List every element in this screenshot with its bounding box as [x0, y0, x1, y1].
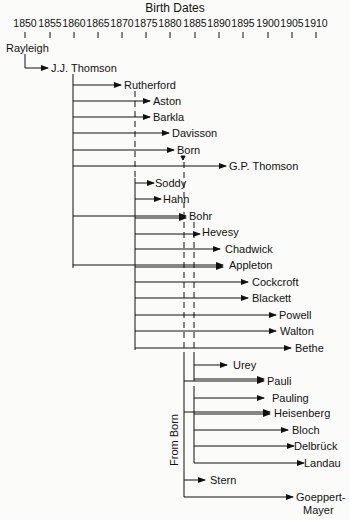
year-tick-label: 1870	[110, 17, 134, 29]
label-rutherford: Rutherford	[124, 79, 176, 91]
label-davisson: Davisson	[172, 127, 217, 139]
label-bloch: Bloch	[292, 424, 320, 436]
label-powell: Powell	[279, 309, 311, 321]
label-pauli: Pauli	[267, 375, 291, 387]
year-tick-label: 1900	[256, 17, 280, 29]
side-label-from-born: From Born	[168, 414, 180, 466]
label-blackett: Blackett	[252, 292, 291, 304]
scientist-labels: Rayleigh J.J. Thomson Rutherford Aston B…	[6, 42, 346, 516]
genealogy-diagram: Birth Dates 1850 1855 1860 1865 1870 187…	[0, 0, 350, 520]
label-cockcroft: Cockcroft	[252, 276, 298, 288]
label-stern: Stern	[210, 474, 236, 486]
year-tick-label: 1875	[134, 17, 158, 29]
label-hevesy: Hevesy	[202, 226, 239, 238]
year-tick-label: 1885	[183, 17, 207, 29]
label-hahn: Hahn	[163, 193, 189, 205]
label-goeppert-mayer-line2: Mayer	[303, 504, 334, 516]
year-tick-label: 1895	[231, 17, 255, 29]
year-tick-label: 1880	[158, 17, 182, 29]
label-rayleigh: Rayleigh	[6, 42, 49, 54]
year-tick-label: 1910	[304, 17, 328, 29]
label-soddy: Soddy	[155, 177, 187, 189]
label-bohr: Bohr	[189, 210, 213, 222]
label-pauling: Pauling	[272, 392, 309, 404]
label-delbruck: Delbrück	[294, 440, 338, 452]
year-tick-label: 1855	[38, 17, 62, 29]
label-heisenberg: Heisenberg	[274, 407, 330, 419]
year-axis: 1850 1855 1860 1865 1870 1875 1880 1885 …	[13, 17, 328, 38]
label-chadwick: Chadwick	[225, 243, 273, 255]
label-barkla: Barkla	[153, 111, 185, 123]
year-tick-label: 1850	[13, 17, 37, 29]
label-gp-thomson: G.P. Thomson	[229, 160, 298, 172]
label-walton: Walton	[280, 325, 314, 337]
label-jj-thomson: J.J. Thomson	[51, 62, 117, 74]
label-born: Born	[177, 144, 200, 156]
label-goeppert-mayer: Goeppert-	[296, 491, 346, 503]
label-aston: Aston	[153, 95, 181, 107]
label-urey: Urey	[233, 359, 257, 371]
label-appleton: Appleton	[229, 259, 272, 271]
year-tick-label: 1860	[62, 17, 86, 29]
chart-title: Birth Dates	[145, 1, 204, 15]
label-landau: Landau	[304, 457, 341, 469]
year-tick-label: 1890	[207, 17, 231, 29]
year-tick-label: 1865	[86, 17, 110, 29]
label-bethe: Bethe	[295, 342, 324, 354]
year-tick-label: 1905	[280, 17, 304, 29]
